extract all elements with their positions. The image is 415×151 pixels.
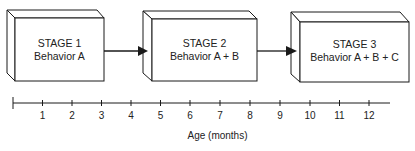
axis-title: Age (months) <box>0 130 415 141</box>
tick-label-8: 8 <box>240 110 260 121</box>
stage-1-title: STAGE 1 <box>15 37 104 50</box>
stage-2-title: STAGE 2 <box>152 37 257 50</box>
tick-label-6: 6 <box>180 110 200 121</box>
tick-label-11: 11 <box>330 110 350 121</box>
age-axis <box>13 97 390 109</box>
tick-label-1: 1 <box>33 110 53 121</box>
arrow-stage1-to-stage2 <box>104 46 148 56</box>
tick-label-10: 10 <box>300 110 320 121</box>
tick-label-2: 2 <box>62 110 82 121</box>
stage-3-title: STAGE 3 <box>300 38 409 51</box>
stage-2-label: STAGE 2 Behavior A + B <box>152 37 257 63</box>
stage-1-behavior: Behavior A <box>15 50 104 63</box>
tick-label-9: 9 <box>270 110 290 121</box>
stage-1-label: STAGE 1 Behavior A <box>15 37 104 63</box>
stage-3-behavior: Behavior A + B + C <box>300 51 409 64</box>
tick-label-4: 4 <box>121 110 141 121</box>
tick-label-5: 5 <box>151 110 171 121</box>
tick-label-3: 3 <box>92 110 112 121</box>
tick-label-12: 12 <box>359 110 379 121</box>
stage-diagram <box>0 0 415 151</box>
tick-label-7: 7 <box>210 110 230 121</box>
stage-2-behavior: Behavior A + B <box>152 50 257 63</box>
stage-3-label: STAGE 3 Behavior A + B + C <box>300 38 409 64</box>
